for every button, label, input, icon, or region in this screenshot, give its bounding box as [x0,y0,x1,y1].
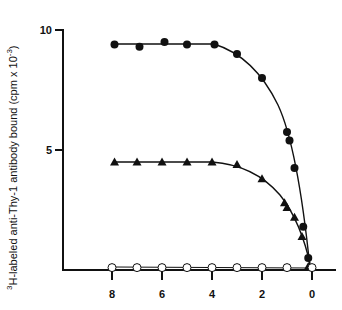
open-circle-marker [283,264,291,272]
y-tick-label: 5 [46,144,52,156]
x-tick-label: 4 [209,288,216,300]
filled-circle-marker [283,128,291,136]
open-circle-marker [183,264,191,272]
x-tick-label: 2 [259,288,265,300]
filled-circle-marker [286,136,294,144]
open-circle-marker [158,264,166,272]
x-tick-label: 0 [309,288,315,300]
filled-circle-marker [183,40,191,48]
svg-text:3H-labeled anti-Thy-1 antibody: 3H-labeled anti-Thy-1 antibody bound (cp… [5,45,19,290]
filled-circle-fit-curve [114,44,310,268]
triangle-marker [258,174,267,182]
open-circle-marker [258,264,266,272]
x-axis-ticks: 86420 [109,270,315,300]
open-circle-marker [208,264,216,272]
filled-circle-marker [291,164,299,172]
y-axis-label: 3H-labeled anti-Thy-1 antibody bound (cp… [5,45,19,290]
filled-circle-marker [299,223,307,231]
filled-circle-marker [136,43,144,51]
open-circle-marker [233,264,241,272]
filled-circle-marker [111,40,119,48]
triangle-fit-curve [114,162,311,268]
filled-circle-marker [258,74,266,82]
filled-circle-marker [233,50,241,58]
y-axis-label-close: ) [7,45,19,49]
x-tick-label: 6 [159,288,165,300]
binding-curve-chart: 3H-labeled anti-Thy-1 antibody bound (cp… [0,0,342,310]
filled-circle-marker [161,38,169,46]
open-circle-marker [308,264,316,272]
triangle-marker [233,160,242,168]
filled-circle-marker [211,40,219,48]
y-axis-label-text: H-labeled anti-Thy-1 antibody bound (cpm… [7,56,19,285]
triangle-marker [298,232,307,240]
x-tick-label: 8 [109,288,115,300]
y-axis-ticks: 510 [40,24,63,156]
y-tick-label: 10 [40,24,52,36]
filled-circle-marker [304,254,312,262]
data-markers [108,38,316,272]
triangle-marker [290,213,299,221]
open-circle-marker [108,264,116,272]
open-circle-marker [133,264,141,272]
